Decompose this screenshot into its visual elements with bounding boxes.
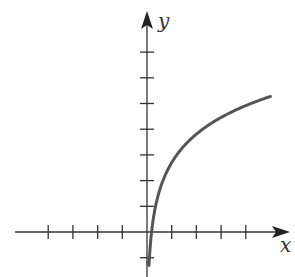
x-axis-label: x [280,233,291,257]
function-curve [148,96,271,266]
graph: x y [0,0,295,277]
y-axis-label: y [157,9,170,33]
